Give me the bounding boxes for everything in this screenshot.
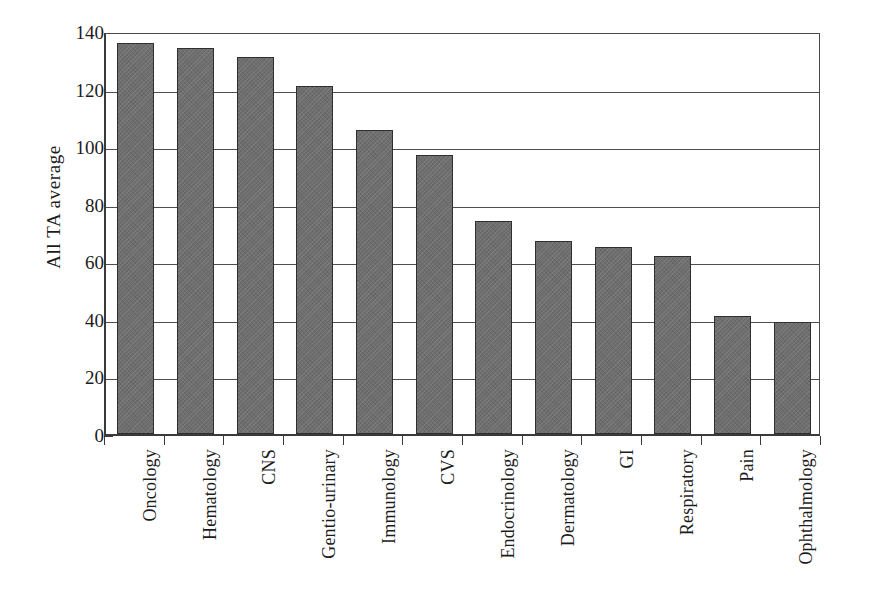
x-tick-mark	[283, 436, 284, 445]
bar	[475, 221, 512, 434]
x-tick-label: Hematology	[201, 449, 219, 609]
y-tick-label: 0	[44, 426, 104, 445]
bar	[595, 247, 632, 434]
x-axis-tick-group	[104, 436, 820, 446]
bar	[117, 43, 154, 434]
bar	[356, 130, 393, 434]
x-axis-label-group: OncologyHematologyCNSGentio-urinaryImmun…	[104, 449, 820, 609]
x-tick-label: Gentio-urinary	[320, 449, 338, 609]
bar	[177, 48, 214, 434]
y-tick-label: 60	[44, 253, 104, 272]
x-tick-label: Pain	[738, 449, 756, 609]
bar	[535, 241, 572, 434]
x-tick-mark	[581, 436, 582, 445]
x-tick-label: Respiratory	[678, 449, 696, 609]
x-tick-label: Ophthalmology	[797, 449, 815, 609]
x-tick-mark	[701, 436, 702, 445]
x-tick-mark	[760, 436, 761, 445]
y-tick-label: 20	[44, 368, 104, 387]
x-tick-mark	[522, 436, 523, 445]
x-tick-mark	[343, 436, 344, 445]
bar	[654, 256, 691, 434]
x-tick-label: Immunology	[380, 449, 398, 609]
y-tick-label: 40	[44, 311, 104, 330]
x-tick-mark	[820, 436, 821, 445]
y-tick-label: 80	[44, 196, 104, 215]
x-tick-mark	[462, 436, 463, 445]
bar	[296, 86, 333, 434]
bar	[237, 57, 274, 434]
bar	[714, 316, 751, 434]
bar	[774, 322, 811, 434]
x-tick-label: CNS	[260, 449, 278, 609]
x-tick-label: Oncology	[141, 449, 159, 609]
y-axis-tick-group: 140120100806040200	[0, 33, 104, 436]
y-tick-label: 100	[44, 138, 104, 157]
plot-area	[104, 33, 820, 436]
x-tick-label: Endocrinology	[499, 449, 517, 609]
x-tick-mark	[104, 436, 105, 445]
bar	[416, 155, 453, 434]
x-tick-mark	[402, 436, 403, 445]
y-tick-label: 120	[44, 81, 104, 100]
x-tick-label: GI	[618, 449, 636, 609]
y-tick-label: 140	[44, 23, 104, 42]
x-tick-mark	[641, 436, 642, 445]
bar-chart-figure: All TA average 140120100806040200 Oncolo…	[0, 0, 881, 614]
x-tick-mark	[223, 436, 224, 445]
x-tick-label: Dermatology	[559, 449, 577, 609]
x-tick-mark	[164, 436, 165, 445]
x-tick-label: CVS	[439, 449, 457, 609]
